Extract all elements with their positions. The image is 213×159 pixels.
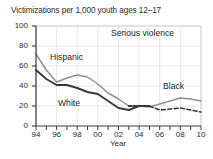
xtick-label-02: 02 [111, 130, 127, 139]
xtick-label-10: 10 [193, 130, 209, 139]
gridlines [36, 26, 201, 126]
xtick-label-98: 98 [69, 130, 85, 139]
ytick-label-60: 60 [8, 61, 28, 70]
xtick-label-00: 00 [90, 130, 106, 139]
annotation-serious-violence: Serious violence [110, 28, 175, 38]
x-axis-title: Year [88, 139, 148, 148]
ytick-label-20: 20 [8, 101, 28, 110]
ytick-label-0: 0 [8, 121, 28, 130]
xtick-label-08: 08 [172, 130, 188, 139]
xtick-label-04: 04 [131, 130, 147, 139]
ytick-label-80: 80 [8, 41, 28, 50]
plot-area: 100 80 60 40 20 0 94 96 98 00 02 04 06 0… [0, 0, 213, 159]
series-label-white: White [57, 98, 81, 108]
series-line-white [36, 70, 149, 110]
xtick-label-96: 96 [49, 130, 65, 139]
chart-container: Victimizations per 1,000 youth ages 12–1… [0, 0, 213, 159]
ytick-label-100: 100 [8, 21, 28, 30]
ytick-label-40: 40 [8, 81, 28, 90]
series-label-hispanic: Hispanic [49, 52, 84, 62]
series-line-white-dashed [149, 106, 201, 112]
series-label-black: Black [162, 81, 185, 91]
xtick-label-94: 94 [28, 130, 44, 139]
xtick-label-06: 06 [152, 130, 168, 139]
